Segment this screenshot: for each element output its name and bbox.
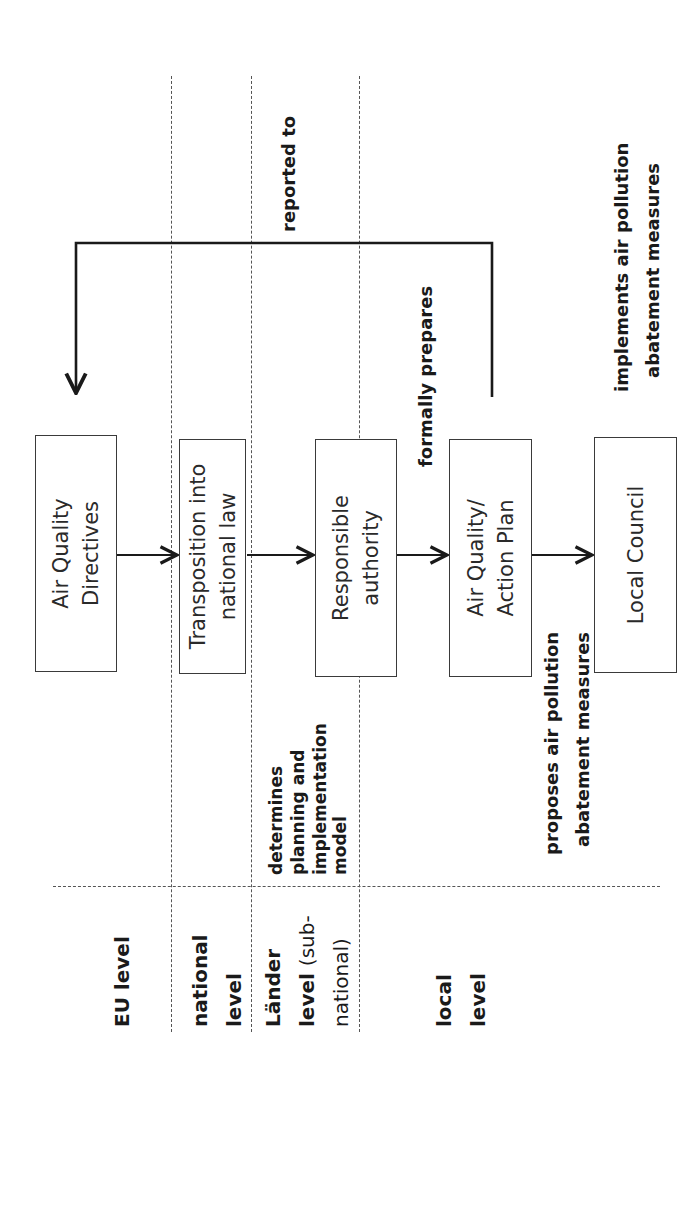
connector-layer <box>0 0 698 1227</box>
reporting-bracket-arrow <box>76 243 492 397</box>
governance-diagram: EU level national level Länder level (su… <box>0 0 698 1227</box>
